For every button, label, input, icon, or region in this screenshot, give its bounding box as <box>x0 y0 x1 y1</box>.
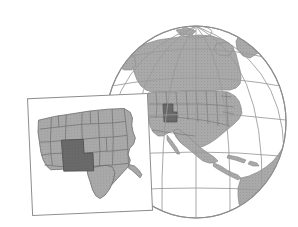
figure-canvas <box>0 0 298 227</box>
inset-panel <box>28 93 153 215</box>
locator-map-figure <box>0 0 298 227</box>
